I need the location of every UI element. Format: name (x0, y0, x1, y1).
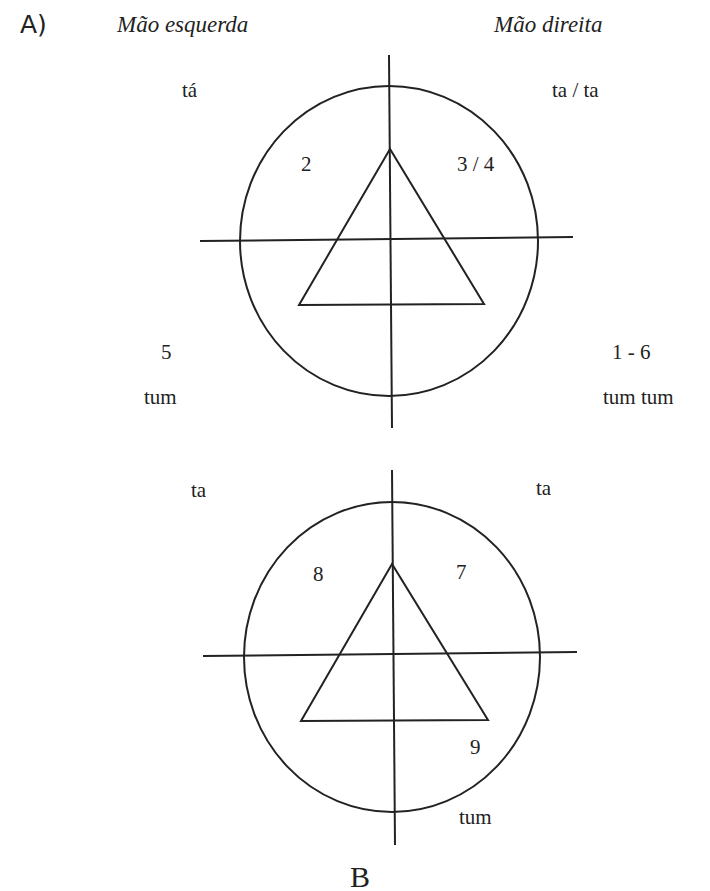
top-horizontal-axis (200, 237, 573, 241)
quadrant-upper-left: 2 (301, 152, 312, 177)
top-right-sound: ta / ta (552, 78, 599, 103)
bottom-right-sound: tum tum (603, 385, 674, 410)
bottom-quadrant-upper-right: 7 (456, 560, 467, 585)
quadrant-upper-right: 3 / 4 (457, 152, 494, 177)
bottom-top-right-sound: ta (536, 476, 551, 501)
bottom-quadrant-upper-left: 8 (313, 562, 324, 587)
bottom-right-number: 1 - 6 (612, 340, 651, 365)
top-vertical-axis (389, 55, 392, 428)
bottom-left-number: 5 (161, 340, 172, 365)
panel-label-b-partial: B (350, 860, 370, 891)
top-left-sound: tá (182, 78, 197, 103)
bottom-top-left-sound: ta (191, 478, 206, 503)
top-diagram (200, 55, 573, 428)
bottom-vertical-axis (392, 470, 395, 845)
bottom-sound: tum (459, 805, 492, 830)
bottom-left-sound: tum (144, 385, 177, 410)
bottom-horizontal-axis (203, 652, 577, 656)
bottom-quadrant-lower-right: 9 (470, 735, 481, 760)
bottom-diagram (203, 470, 577, 845)
